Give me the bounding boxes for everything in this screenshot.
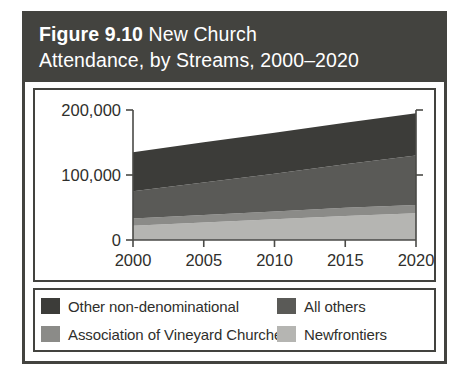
legend-swatch-newfrontiers <box>277 326 296 342</box>
figure-title-part-2: Attendance, by Streams, 2000–2020 <box>39 49 359 71</box>
figure-number: Figure 9.10 <box>39 23 143 45</box>
figure-container: Figure 9.10 New Church Attendance, by St… <box>22 11 447 364</box>
x-tick-label: 2015 <box>327 251 364 269</box>
y-tick-label: 100,000 <box>61 166 121 184</box>
legend-swatch-all-others <box>277 298 296 314</box>
legend-label-association-of-vineyard-churches: Association of Vineyard Churches <box>68 326 290 343</box>
chart-legend: Other non-denominational All others Asso… <box>33 288 436 352</box>
y-tick-label: 0 <box>112 231 121 249</box>
legend-label-all-others: All others <box>304 298 366 315</box>
figure-title-band: Figure 9.10 New Church Attendance, by St… <box>25 14 444 82</box>
legend-item-all-others: All others <box>277 298 434 315</box>
legend-swatch-other-non-denominational <box>41 298 60 314</box>
legend-item-other-non-denominational: Other non-denominational <box>41 298 277 315</box>
x-tick-label: 2020 <box>398 251 434 269</box>
x-tick-label: 2010 <box>256 251 293 269</box>
legend-item-association-of-vineyard-churches: Association of Vineyard Churches <box>41 326 277 343</box>
legend-label-other-non-denominational: Other non-denominational <box>68 298 239 315</box>
figure-title-part-1: New Church <box>149 23 257 45</box>
x-tick-label: 2000 <box>115 251 152 269</box>
legend-swatch-association-of-vineyard-churches <box>41 326 60 342</box>
x-tick-label: 2005 <box>185 251 222 269</box>
figure-title-line-2: Attendance, by Streams, 2000–2020 <box>39 47 444 73</box>
stacked-area-chart: 0100,000200,000 20002005201020152020 <box>35 90 434 280</box>
x-axis-ticks: 20002005201020152020 <box>115 240 434 269</box>
figure-title-line-1: Figure 9.10 New Church <box>39 21 444 47</box>
y-tick-label: 200,000 <box>61 101 121 119</box>
legend-item-newfrontiers: Newfrontiers <box>277 326 434 343</box>
legend-label-newfrontiers: Newfrontiers <box>304 326 387 343</box>
chart-panel: 0100,000200,000 20002005201020152020 <box>33 88 436 282</box>
area-series-group <box>133 113 416 240</box>
